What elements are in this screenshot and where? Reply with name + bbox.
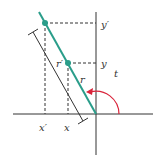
point-outer — [42, 20, 48, 26]
label-t: t — [114, 68, 119, 79]
r-prime-dimension — [28, 29, 88, 124]
label-r-prime: r′ — [56, 58, 64, 69]
arrowhead-icon — [86, 88, 93, 95]
dimension-tick-bottom — [78, 118, 88, 124]
label-y: y — [100, 58, 107, 69]
point-inner — [65, 60, 71, 66]
diagram-canvas: y′ y r r′ t x′ x — [0, 0, 162, 162]
label-r: r — [80, 74, 86, 85]
label-y-prime: y′ — [100, 19, 110, 30]
dimension-tick-top — [28, 29, 38, 35]
label-x-prime: x′ — [39, 122, 48, 133]
label-x: x — [64, 122, 70, 133]
